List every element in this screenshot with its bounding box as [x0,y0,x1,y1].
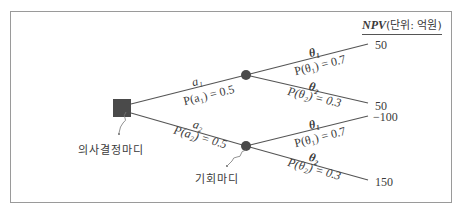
decision-node-label: 의사결정마디 [78,141,144,157]
outcome-1: 50 [375,38,387,53]
chance-node-label: 기회마디 [195,170,239,186]
decision-node-square [113,99,131,117]
outcome-4: 150 [375,175,393,190]
npv-unit-header: NPV(단위: 억원) [362,16,442,35]
unit-label: (단위: 억원) [386,19,442,32]
chance-node-lower [241,141,251,151]
outcome-3: −100 [373,110,398,125]
chance-node-upper [241,70,251,80]
npv-label: NPV [362,18,386,32]
